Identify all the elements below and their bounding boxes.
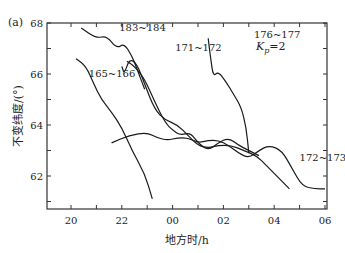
- series-label: 165~166: [89, 68, 136, 79]
- y-tick-label: 68: [30, 18, 43, 29]
- series-line: [122, 61, 290, 189]
- x-tick-label: 04: [268, 215, 281, 226]
- x-tick-label: 06: [319, 215, 332, 226]
- chart: (a) 202200020406 62646668 183~184165~166…: [0, 0, 345, 253]
- series-label: 176~177: [254, 29, 301, 40]
- y-axis-label: 不变纬度/(°): [11, 85, 25, 147]
- y-tick-label: 66: [30, 69, 43, 80]
- x-tick-label: 00: [166, 215, 179, 226]
- series-line: [208, 38, 249, 153]
- series-label: 171~172: [175, 42, 222, 53]
- x-tick-label: 02: [217, 215, 230, 226]
- plot-lines: 183~184165~166171~172176~177172~173: [76, 22, 345, 199]
- series-line: [112, 133, 325, 188]
- x-axis-label: 地方时/h: [165, 233, 209, 247]
- series-label: 172~173: [300, 152, 345, 163]
- series-line: [127, 61, 259, 155]
- y-tick-label: 64: [30, 120, 43, 131]
- y-tick-label: 62: [30, 171, 43, 182]
- x-tick-label: 20: [65, 215, 78, 226]
- series-line: [81, 28, 145, 89]
- x-axis: 202200020406: [65, 23, 332, 226]
- series-label: 183~184: [119, 22, 166, 33]
- x-tick-label: 22: [115, 215, 128, 226]
- panel-label: (a): [8, 16, 23, 29]
- kp-annotation: Kp=2: [255, 40, 286, 55]
